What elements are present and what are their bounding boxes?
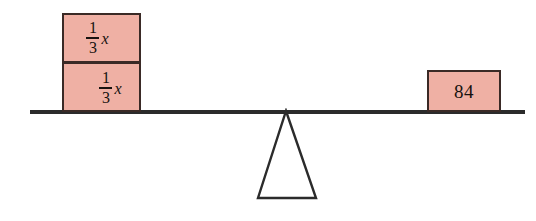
fraction-one-third-top: 1 3 xyxy=(86,20,99,56)
balance-scale-diagram: 1 3 x 1 3 x 84 xyxy=(0,0,536,221)
fraction-denominator: 3 xyxy=(87,40,99,56)
fraction-term-top: 1 3 x xyxy=(86,20,108,56)
fraction-numerator: 1 xyxy=(87,20,99,36)
fraction-one-third-bottom: 1 3 xyxy=(99,70,112,106)
fraction-denominator: 3 xyxy=(100,90,112,106)
box-one-third-x-top: 1 3 x xyxy=(62,13,141,63)
variable-x-bottom: x xyxy=(114,81,121,97)
number-term: 84 xyxy=(454,82,474,101)
fulcrum-triangle xyxy=(250,108,326,202)
fraction-numerator: 1 xyxy=(100,70,112,86)
box-eighty-four: 84 xyxy=(427,70,501,112)
variable-x-top: x xyxy=(101,31,108,47)
box-one-third-x-bottom: 1 3 x xyxy=(62,62,141,112)
number-value: 84 xyxy=(454,82,474,101)
fraction-term-bottom: 1 3 x xyxy=(99,70,121,106)
